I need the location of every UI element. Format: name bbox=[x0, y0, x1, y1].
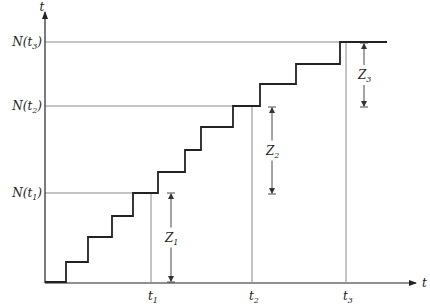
dimension-arrows bbox=[163, 43, 374, 282]
x-tick-labels: t1t2t3 bbox=[148, 289, 353, 305]
diagram-canvas: t t N(t1)N(t2)N(t3) t1t2t3 Z1Z2Z3 bbox=[0, 0, 430, 305]
y-level-labels: N(t1)N(t2)N(t3) bbox=[11, 35, 42, 202]
dimension-labels: Z1Z2Z3 bbox=[164, 68, 371, 247]
y-level-label-3: N(t3) bbox=[11, 35, 42, 51]
counting-process-diagram: t t N(t1)N(t2)N(t3) t1t2t3 Z1Z2Z3 bbox=[0, 0, 430, 305]
x-axis-label: t bbox=[422, 276, 427, 290]
step-function-line bbox=[45, 42, 387, 282]
y-level-label-2: N(t2) bbox=[11, 99, 42, 115]
y-level-label-1: N(t1) bbox=[11, 186, 42, 202]
y-axis-label: t bbox=[40, 0, 45, 14]
x-tick-label-t3: t3 bbox=[343, 289, 353, 305]
x-tick-label-t2: t2 bbox=[249, 289, 259, 305]
x-tick-label-t1: t1 bbox=[148, 289, 158, 305]
